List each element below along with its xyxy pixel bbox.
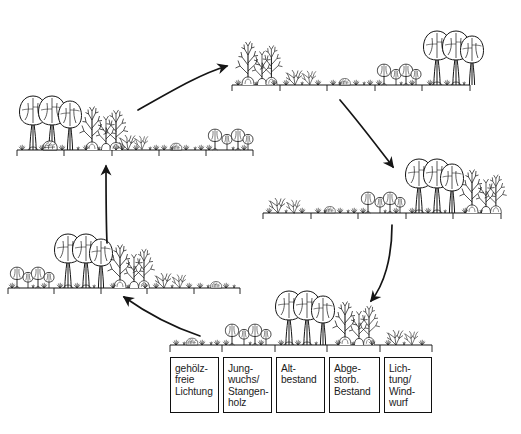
arrow-topcenter-to-rightmiddle bbox=[340, 100, 393, 167]
zone-altbestand bbox=[55, 234, 113, 288]
zone-altbestand bbox=[406, 159, 464, 213]
zone-altbestand bbox=[19, 96, 82, 150]
zone-abgestorbener-bestand bbox=[460, 170, 507, 214]
zone-lichtung-windwurf bbox=[283, 70, 321, 85]
zone-jungwuchs-stangenholz bbox=[223, 324, 271, 345]
zone-gehoelzfreie-lichtung bbox=[173, 338, 220, 345]
phase-ticks bbox=[232, 85, 470, 91]
legend-box-altbestand[interactable]: Alt- bestand bbox=[276, 357, 325, 413]
zone-lichtung-windwurf bbox=[266, 198, 305, 213]
vignette-bottom-center bbox=[170, 291, 432, 352]
zone-jungwuchs-stangenholz bbox=[9, 267, 54, 288]
phase-legend: gehölz- freie Lichtung Jung- wuchs/ Stan… bbox=[170, 357, 434, 413]
zone-abgestorbener-bestand bbox=[108, 245, 155, 289]
vignette-upper-left bbox=[17, 96, 253, 156]
vignette-left-middle bbox=[8, 234, 240, 294]
zone-gehoelzfreie-lichtung bbox=[161, 143, 204, 150]
zone-altbestand bbox=[276, 291, 335, 345]
phase-ticks bbox=[170, 345, 432, 352]
arrow-leftmiddle-to-upperleft bbox=[106, 166, 107, 243]
legend-box-lichtung-windwurf[interactable]: Lich- tung/ Wind- wurf bbox=[384, 357, 432, 413]
zone-jungwuchs-stangenholz bbox=[376, 64, 421, 85]
legend-box-jungwuchs-stangenholz[interactable]: Jung- wuchs/ Stangen- holz bbox=[223, 357, 272, 413]
legend-box-abgestorbener-bestand[interactable]: Abge- storb. Bestand bbox=[329, 357, 380, 413]
arrow-upperleft-to-topcenter bbox=[138, 66, 227, 110]
zone-lichtung-windwurf bbox=[153, 273, 192, 288]
zone-gehoelzfreie-lichtung bbox=[315, 207, 357, 214]
zone-jungwuchs-stangenholz bbox=[360, 192, 405, 213]
forest-cycle-diagram: gehölz- freie Lichtung Jung- wuchs/ Stan… bbox=[0, 0, 521, 434]
cycle-arrows bbox=[106, 66, 393, 336]
zone-gehoelzfreie-lichtung bbox=[197, 282, 235, 288]
zone-jungwuchs-stangenholz bbox=[206, 129, 253, 150]
zone-lichtung-windwurf bbox=[385, 330, 425, 345]
phase-ticks bbox=[8, 288, 240, 294]
phase-ticks bbox=[17, 150, 253, 156]
arrow-rightmiddle-to-bottomcenter bbox=[371, 225, 392, 301]
vignette-right-middle bbox=[263, 159, 507, 219]
arrow-bottomcenter-to-leftmiddle bbox=[124, 297, 200, 336]
zone-gehoelzfreie-lichtung bbox=[330, 78, 373, 85]
legend-box-gehoelzfreie-lichtung[interactable]: gehölz- freie Lichtung bbox=[170, 357, 219, 413]
zone-altbestand bbox=[424, 31, 484, 85]
zone-lichtung-windwurf bbox=[119, 135, 159, 150]
vignette-top-center bbox=[232, 31, 484, 91]
phase-ticks bbox=[263, 213, 501, 219]
zone-abgestorbener-bestand bbox=[333, 302, 380, 346]
zone-abgestorbener-bestand bbox=[235, 42, 282, 86]
